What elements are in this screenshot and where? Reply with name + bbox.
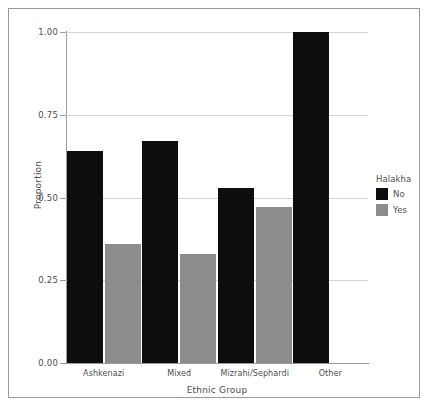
x-tick-label: Other: [293, 369, 369, 378]
y-tick-mark: [60, 363, 66, 364]
y-tick-label: 0.75: [18, 110, 58, 120]
x-axis-label: Ethnic Group: [66, 385, 368, 395]
y-tick-label-wrap: 0.75: [14, 110, 58, 120]
bar-mizrahi-sephardi-yes: [256, 207, 292, 363]
legend-item-yes[interactable]: Yes: [376, 204, 428, 216]
bar-mizrahi-sephardi-no: [218, 188, 254, 363]
y-axis-label: Proportion: [33, 125, 43, 245]
x-axis-line: [66, 363, 369, 364]
bar-ashkenazi-yes: [105, 244, 141, 363]
legend-title: Halakha: [376, 174, 428, 184]
legend-swatch-yes: [376, 204, 388, 216]
y-tick-label: 0.00: [18, 358, 58, 368]
x-tick-label: Mixed: [142, 369, 218, 378]
x-tick-label: Ashkenazi: [66, 369, 142, 378]
bar-mixed-yes: [180, 254, 216, 363]
legend: Halakha NoYes: [376, 174, 428, 220]
y-tick-label-wrap: 1.00: [14, 27, 58, 37]
y-tick-label: 0.50: [18, 193, 58, 203]
legend-label: No: [393, 189, 405, 199]
y-tick-label-wrap: 0.50: [14, 193, 58, 203]
chart-figure: Proportion 0.000.250.500.751.00 Ashkenaz…: [0, 0, 435, 418]
plot-area: [66, 32, 368, 363]
y-tick-label: 0.25: [18, 275, 58, 285]
bar-ashkenazi-no: [67, 151, 103, 363]
y-tick-label: 1.00: [18, 27, 58, 37]
bar-mixed-no: [142, 141, 178, 363]
y-tick-label-wrap: 0.00: [14, 358, 58, 368]
legend-swatch-no: [376, 188, 388, 200]
legend-label: Yes: [393, 205, 407, 215]
x-tick-label: Mizrahi/Sephardi: [217, 369, 293, 378]
bar-other-no: [293, 32, 329, 363]
legend-entries: NoYes: [376, 188, 428, 216]
y-tick-label-wrap: 0.25: [14, 275, 58, 285]
legend-item-no[interactable]: No: [376, 188, 428, 200]
